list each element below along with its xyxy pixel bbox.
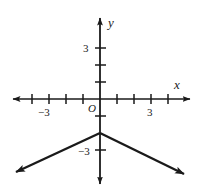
graph-figure: y x O 3 −3 −3 3 <box>0 0 206 195</box>
curve-right-arm <box>100 133 184 174</box>
y-axis-label: y <box>108 16 114 29</box>
x-tick-label-3: 3 <box>147 107 153 118</box>
coordinate-plane-svg <box>0 0 206 195</box>
y-axis-group <box>95 18 106 184</box>
y-tick-label-minus-3: −3 <box>78 146 90 157</box>
origin-label: O <box>88 103 96 114</box>
x-tick-label-minus-3: −3 <box>38 107 50 118</box>
x-axis-label: x <box>174 78 180 91</box>
x-axis-group <box>13 94 190 104</box>
y-tick-label-3: 3 <box>83 43 89 54</box>
